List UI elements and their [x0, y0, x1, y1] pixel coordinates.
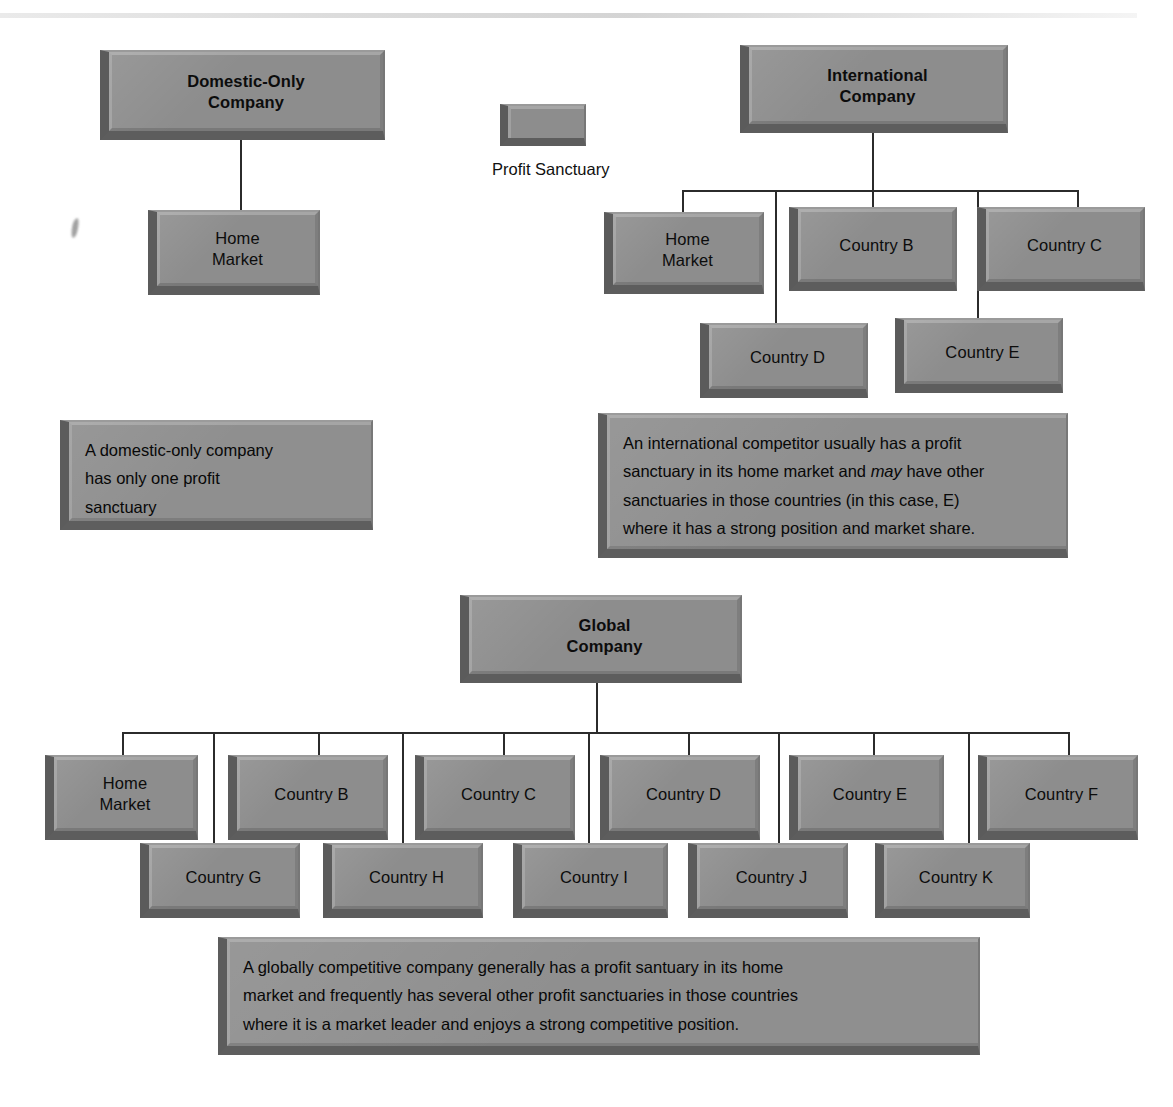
- global-country-i-box[interactable]: Country I: [513, 843, 668, 918]
- domestic-only-company-box[interactable]: Domestic-Only Company: [100, 50, 385, 140]
- domestic-title-line-1: Domestic-Only: [187, 72, 305, 90]
- scan-artifact-speck: [70, 218, 80, 239]
- global-country-h-box[interactable]: Country H: [323, 843, 483, 918]
- intl-home-line-2: Market: [662, 251, 713, 269]
- profit-sanctuary-label: Profit Sanctuary: [492, 160, 609, 179]
- domestic-caption-line-2: has only one profit: [85, 464, 353, 492]
- global-drop-i: [588, 732, 590, 844]
- domestic-home-line-2: Market: [212, 250, 263, 268]
- intl-caption-line-1: An international competitor usually has …: [623, 429, 1048, 457]
- domestic-title-line-2: Company: [208, 93, 284, 111]
- global-country-f-label: Country F: [1025, 784, 1098, 805]
- intl-title-line-1: International: [827, 66, 927, 84]
- domestic-caption-line-1: A domestic-only company: [85, 436, 353, 464]
- global-country-g-box[interactable]: Country G: [140, 843, 300, 918]
- global-country-b-label: Country B: [274, 784, 348, 805]
- global-country-d-label: Country D: [646, 784, 721, 805]
- domestic-home-market-box[interactable]: Home Market: [148, 210, 320, 295]
- global-country-c-box[interactable]: Country C: [415, 755, 575, 840]
- international-country-c-box[interactable]: Country C: [977, 207, 1145, 291]
- global-drop-home: [122, 732, 124, 757]
- intl-caption-line-3: sanctuaries in those countries (in this …: [623, 486, 1048, 514]
- global-country-d-box[interactable]: Country D: [600, 755, 760, 840]
- domestic-home-line-1: Home: [215, 229, 259, 247]
- global-caption-line-2: market and frequently has several other …: [243, 981, 960, 1009]
- global-drop-h: [402, 732, 404, 844]
- global-drop-k: [968, 732, 970, 844]
- header-rule: [0, 13, 1137, 18]
- domestic-connector-vertical: [240, 140, 242, 210]
- intl-country-c-label: Country C: [1027, 235, 1102, 256]
- global-country-j-label: Country J: [736, 867, 808, 888]
- global-caption-line-3: where it is a market leader and enjoys a…: [243, 1010, 960, 1038]
- global-country-e-box[interactable]: Country E: [789, 755, 944, 840]
- intl-trunk-vertical: [872, 133, 874, 191]
- intl-bus-horizontal: [682, 190, 1079, 192]
- intl-home-line-1: Home: [665, 230, 709, 248]
- global-drop-c: [503, 732, 505, 757]
- global-drop-e: [873, 732, 875, 757]
- global-country-k-label: Country K: [919, 867, 993, 888]
- global-caption-line-1: A globally competitive company generally…: [243, 953, 960, 981]
- global-caption-panel: A globally competitive company generally…: [218, 937, 980, 1055]
- global-country-k-box[interactable]: Country K: [875, 843, 1030, 918]
- global-country-b-box[interactable]: Country B: [228, 755, 388, 840]
- global-company-box[interactable]: Global Company: [460, 595, 742, 683]
- global-country-i-label: Country I: [560, 867, 628, 888]
- profit-sanctuary-swatch: [500, 104, 586, 146]
- global-title-line-1: Global: [579, 616, 631, 634]
- intl-title-line-2: Company: [840, 87, 916, 105]
- global-drop-f: [1068, 732, 1070, 757]
- global-home-line-2: Market: [99, 795, 150, 813]
- international-caption-panel: An international competitor usually has …: [598, 413, 1068, 558]
- intl-drop-d: [775, 190, 777, 323]
- intl-caption-line-2-part-a: sanctuary in its home market and: [623, 462, 871, 480]
- global-country-c-label: Country C: [461, 784, 536, 805]
- intl-caption-emphasis-may: may: [871, 462, 902, 480]
- international-country-d-box[interactable]: Country D: [700, 323, 868, 398]
- global-country-h-label: Country H: [369, 867, 444, 888]
- intl-country-b-label: Country B: [839, 235, 913, 256]
- domestic-caption-panel: A domestic-only company has only one pro…: [60, 420, 373, 530]
- global-drop-g: [213, 732, 215, 844]
- international-country-b-box[interactable]: Country B: [789, 207, 957, 291]
- global-drop-d: [688, 732, 690, 757]
- global-bus-horizontal: [122, 732, 1070, 734]
- international-country-e-box[interactable]: Country E: [895, 318, 1063, 393]
- international-home-market-box[interactable]: Home Market: [604, 212, 764, 294]
- global-home-line-1: Home: [103, 774, 147, 792]
- international-company-box[interactable]: International Company: [740, 45, 1008, 133]
- global-trunk-vertical: [596, 683, 598, 733]
- global-home-market-box[interactable]: Home Market: [45, 755, 198, 840]
- intl-drop-home: [682, 190, 684, 212]
- intl-country-d-label: Country D: [750, 347, 825, 368]
- global-drop-j: [778, 732, 780, 844]
- domestic-caption-line-3: sanctuary: [85, 493, 353, 521]
- intl-caption-line-2: sanctuary in its home market and may hav…: [623, 457, 1048, 485]
- intl-caption-line-2-part-b: have other: [902, 462, 985, 480]
- intl-country-e-label: Country E: [945, 342, 1019, 363]
- figure-canvas: Domestic-Only Company Home Market A dome…: [0, 0, 1173, 1107]
- global-country-g-label: Country G: [185, 867, 261, 888]
- intl-caption-line-4: where it has a strong position and marke…: [623, 514, 1048, 542]
- global-country-f-box[interactable]: Country F: [978, 755, 1138, 840]
- global-country-j-box[interactable]: Country J: [688, 843, 848, 918]
- global-country-e-label: Country E: [833, 784, 907, 805]
- global-title-line-2: Company: [567, 637, 643, 655]
- global-drop-b: [318, 732, 320, 757]
